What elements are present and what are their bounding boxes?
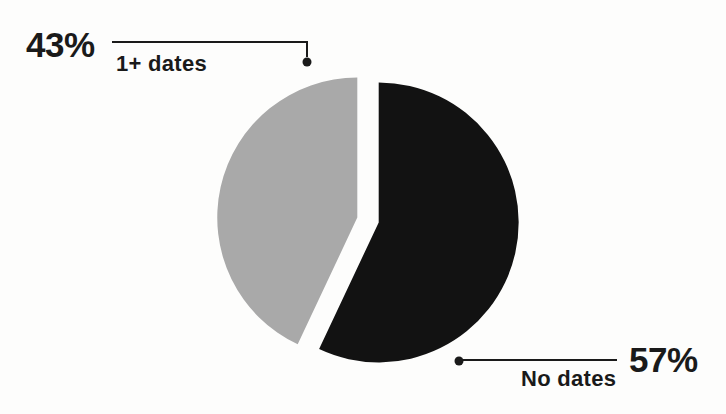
leader-dot-1plus-dates — [303, 58, 312, 67]
category-label-1plus-dates: 1+ dates — [116, 53, 207, 75]
pie-slices — [217, 78, 518, 363]
pie-chart-figure: 43% 1+ dates 57% No dates — [0, 0, 726, 414]
percent-label-no-dates: 57% — [629, 342, 698, 377]
pie-chart-canvas — [0, 0, 726, 414]
leader-dot-no-dates — [455, 357, 464, 366]
pie-slice-1-dates — [217, 78, 357, 345]
percent-label-1plus-dates: 43% — [26, 27, 95, 62]
category-label-no-dates: No dates — [521, 368, 616, 390]
